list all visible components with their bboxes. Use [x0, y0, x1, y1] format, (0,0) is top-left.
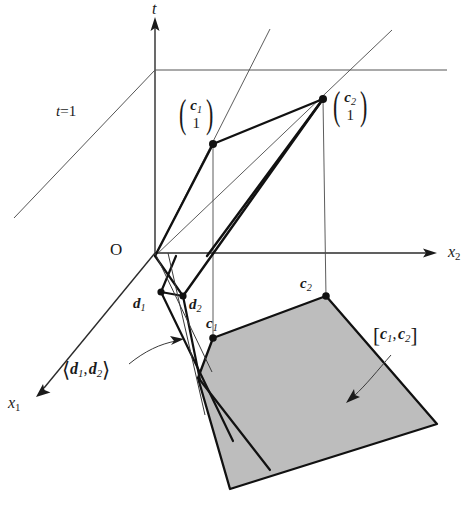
x1-axis-arrowhead: [36, 384, 51, 397]
thin-line-lower-left: [168, 253, 205, 415]
segment-label: [c1, c2]: [373, 323, 417, 348]
figure-canvas: t x2 x1 O t=1 ( c1 1 ) ( c2 1 ) d1 d: [0, 0, 474, 509]
hyperplane-t1-label: t=1: [56, 103, 76, 120]
edge-O-c1top: [155, 144, 213, 256]
d2-label: d2: [189, 296, 202, 314]
cone-generated-label: ⟨d1, d2⟩: [62, 358, 110, 383]
t-axis-label: t: [152, 0, 156, 18]
c2-base-label: c2: [300, 275, 312, 293]
edge-O-d2: [161, 256, 176, 292]
dot-c1-top: [209, 140, 217, 148]
ray-O-c2-extended: [155, 30, 392, 256]
x2-axis-label: x2: [448, 243, 461, 262]
cone-label-leader: [129, 336, 184, 364]
d1-label: d1: [133, 295, 146, 313]
diagram-svg: [0, 0, 474, 509]
dot-c2-top: [319, 95, 327, 103]
c1-top-vector-label: ( c1 1 ): [176, 96, 216, 132]
hyperplane-t1: [14, 70, 447, 218]
left-paren-c2: (: [333, 88, 340, 124]
dot-c2-base: [322, 292, 330, 300]
dropline-c2: [323, 99, 326, 297]
origin-label: O: [110, 240, 122, 260]
c1-base-label: c1: [206, 315, 218, 333]
x1-axis-label: x1: [8, 394, 21, 413]
left-paren-c1: (: [179, 96, 186, 132]
t1-oblique-line: [14, 70, 155, 218]
dot-c1-base: [209, 334, 217, 342]
cone-leader-curve: [129, 341, 176, 364]
thin-ray-group: [155, 29, 392, 256]
dot-d1: [157, 288, 164, 295]
thin-line-through-d: [155, 253, 212, 372]
right-paren-c1: ): [206, 96, 213, 132]
right-paren-c2: ): [360, 88, 367, 124]
dot-d2: [179, 292, 186, 299]
c2-top-vector-label: ( c2 1 ): [330, 88, 370, 124]
